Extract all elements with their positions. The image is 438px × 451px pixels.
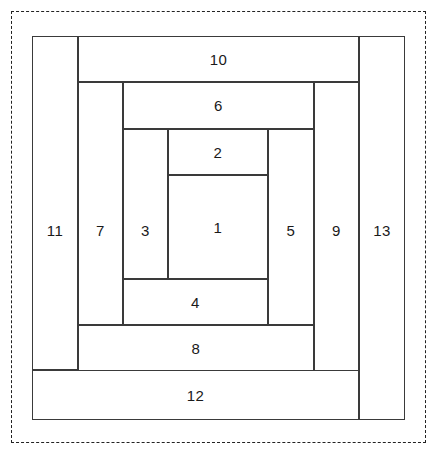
piece-5-label: 5 [269,223,313,238]
piece-4: 4 [123,279,268,325]
piece-9: 9 [314,82,359,372]
piece-3: 3 [123,129,168,279]
diagram-canvas: 12345678910111213 [0,0,438,451]
piece-11: 11 [32,36,78,370]
piece-7-label: 7 [79,223,122,238]
piece-12: 12 [32,370,359,420]
piece-4-label: 4 [191,295,200,310]
piece-13-label: 13 [360,223,404,238]
piece-3-label: 3 [124,223,167,238]
piece-11-label: 11 [33,223,77,238]
piece-13: 13 [359,36,405,420]
log-cabin-block: 12345678910111213 [32,36,405,420]
piece-10-label: 10 [210,52,228,67]
piece-8: 8 [78,325,314,372]
piece-12-label: 12 [187,388,205,403]
piece-8-label: 8 [192,341,201,356]
piece-2: 2 [168,129,268,175]
piece-6: 6 [123,82,314,129]
piece-1-label: 1 [214,220,223,235]
piece-9-label: 9 [315,223,358,238]
piece-6-label: 6 [214,98,223,113]
piece-5: 5 [268,129,314,325]
piece-10: 10 [78,36,359,82]
piece-2-label: 2 [214,145,223,160]
piece-7: 7 [78,82,123,325]
piece-1: 1 [168,175,268,279]
